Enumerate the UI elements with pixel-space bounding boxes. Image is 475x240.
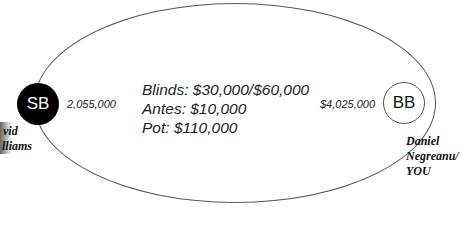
bb-player-name: Daniel Negreanu/ YOU [406, 134, 459, 179]
pot-text: Pot: $110,000 [142, 118, 309, 137]
sb-stack: 2,055,000 [67, 98, 116, 110]
sb-name-line1: vid [0, 124, 32, 139]
bb-name-line3: YOU [406, 164, 459, 179]
bb-name-line2: Negreanu/ [406, 149, 459, 164]
blinds-text: Blinds: $30,000/$60,000 [142, 80, 309, 99]
sb-name-line2: lliams [0, 139, 32, 154]
seat-label: BB [393, 93, 416, 113]
seat-label: SB [27, 94, 50, 114]
antes-text: Antes: $10,000 [142, 99, 309, 118]
seat-big-blind: BB [383, 82, 425, 124]
bb-stack: $4,025,000 [320, 98, 375, 110]
table-info: Blinds: $30,000/$60,000 Antes: $10,000 P… [142, 80, 309, 137]
bb-name-line1: Daniel [406, 134, 459, 149]
seat-small-blind: SB [17, 83, 59, 125]
sb-player-name: vid lliams [0, 124, 32, 154]
